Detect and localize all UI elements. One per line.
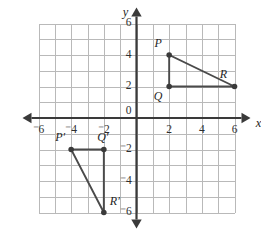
vertex-dot-Pprime — [68, 147, 74, 153]
y-tick-neg4: ⁻4 — [120, 174, 132, 186]
vertex-label-Rprime: R′ — [109, 194, 120, 208]
x-tick-neg4: ⁻4 — [65, 123, 77, 135]
y-tick-neg2: ⁻2 — [120, 142, 132, 154]
vertex-dot-Qprime — [101, 147, 107, 153]
y-tick-pos2: 2 — [126, 79, 132, 91]
y-tick-neg6: ⁻6 — [120, 205, 132, 217]
x-tick-neg6: ⁻6 — [33, 123, 45, 135]
y-axis-label: y — [121, 5, 129, 19]
coordinate-plane-figure: ⁻6⁻4⁻2246642⁻2⁻4⁻60 PQRP′Q′R′ xy — [0, 0, 261, 233]
x-tick-pos4: 4 — [199, 123, 205, 135]
vertex-label-Pprime: P′ — [54, 130, 65, 144]
x-tick-pos6: 6 — [232, 123, 238, 135]
origin-label: 0 — [126, 104, 132, 116]
y-tick-pos4: 4 — [126, 48, 132, 60]
coordinate-plane-svg: ⁻6⁻4⁻2246642⁻2⁻4⁻60 PQRP′Q′R′ xy — [0, 0, 261, 233]
vertex-dot-Rprime — [101, 210, 107, 216]
vertex-dot-Q — [166, 84, 172, 90]
vertex-label-R: R — [219, 67, 228, 81]
vertex-label-P: P — [153, 36, 162, 50]
vertex-dot-R — [232, 84, 238, 90]
x-tick-pos2: 2 — [166, 123, 172, 135]
vertex-label-Q: Q — [154, 89, 163, 103]
axes — [23, 8, 251, 229]
triangles — [71, 55, 234, 213]
vertex-label-Qprime: Q′ — [97, 130, 109, 144]
vertex-dot-P — [166, 52, 172, 58]
tick-labels: ⁻6⁻4⁻2246642⁻2⁻4⁻60 — [33, 16, 238, 217]
x-axis-label: x — [255, 116, 261, 130]
